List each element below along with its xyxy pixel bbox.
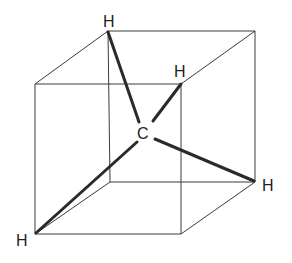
atom-hydrogen-top: H [103,13,115,30]
atom-hydrogen-bottom-left: H [16,232,28,249]
bond-bottom-left [36,142,137,233]
atom-hydrogen-right: H [262,177,274,194]
bond-right [155,139,254,181]
methane-cube-diagram: C H H H H [0,0,292,263]
atom-hydrogen-upper-right: H [174,63,186,80]
cube-front-face [35,84,181,234]
bond-upper-right [153,84,181,121]
bond-top [108,32,139,122]
atom-carbon: C [137,125,149,142]
